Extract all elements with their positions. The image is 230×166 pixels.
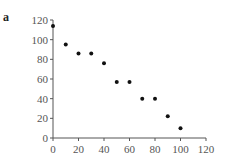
x-tick-label: 80	[150, 143, 162, 155]
y-tick-label: 20	[37, 112, 49, 124]
y-tick-label: 60	[37, 73, 49, 85]
data-point	[115, 80, 119, 84]
x-tick-label: 20	[73, 143, 85, 155]
plot-area: 020406080100120020406080100120	[0, 0, 230, 166]
x-tick-label: 0	[50, 143, 56, 155]
data-point	[153, 97, 157, 101]
y-tick-label: 40	[37, 93, 49, 105]
y-tick-label: 80	[37, 53, 49, 65]
y-tick-label: 120	[32, 14, 49, 26]
x-tick-label: 100	[172, 143, 189, 155]
y-tick-label: 100	[32, 34, 49, 46]
panel-label: a	[3, 10, 9, 25]
x-tick-label: 120	[198, 143, 215, 155]
data-point	[140, 97, 144, 101]
y-tick-label: 0	[43, 132, 49, 144]
data-point	[77, 51, 81, 55]
data-point	[64, 43, 68, 47]
data-point	[128, 80, 132, 84]
x-tick-label: 60	[124, 143, 136, 155]
scatter-chart: a 020406080100120020406080100120	[0, 0, 230, 166]
data-point	[89, 51, 93, 55]
data-point	[179, 126, 183, 130]
data-point	[51, 24, 55, 28]
data-point	[166, 114, 170, 118]
data-point	[102, 61, 106, 65]
x-tick-label: 40	[99, 143, 111, 155]
